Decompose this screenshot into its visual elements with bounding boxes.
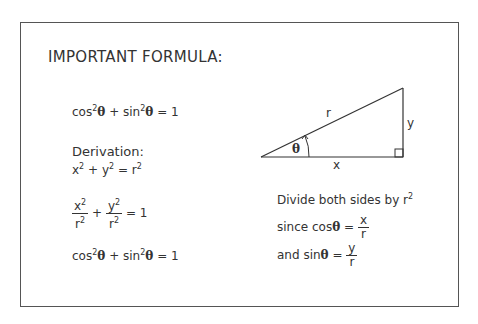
- equals-one: = 1: [126, 206, 148, 220]
- equals-one: = 1: [157, 105, 179, 119]
- exponent: 2: [81, 198, 86, 207]
- plus-sign: +: [109, 105, 119, 119]
- cos-text: cos: [72, 105, 92, 119]
- derivation-result: cos2θ + sin2θ = 1: [72, 248, 179, 263]
- fraction-step: x2 r2 + y2 r2 = 1: [72, 196, 147, 231]
- exponent: 2: [408, 192, 413, 201]
- divide-note: Divide both sides by r2: [277, 192, 413, 207]
- sin-definition: and sinθ = y r: [277, 242, 357, 269]
- divide-text: Divide both sides by r: [277, 193, 408, 207]
- exponent: 2: [114, 216, 119, 225]
- sin-text: sin: [123, 249, 140, 263]
- theta-symbol: θ: [97, 105, 105, 119]
- numerator: y: [346, 242, 357, 256]
- denominator: r: [358, 228, 369, 241]
- theta-symbol: θ: [321, 248, 329, 262]
- hypotenuse: [261, 88, 403, 157]
- denominator: r: [346, 256, 357, 269]
- page-title: IMPORTANT FORMULA:: [48, 48, 223, 66]
- exponent: 2: [79, 162, 84, 171]
- derivation-heading: Derivation:: [72, 144, 144, 159]
- pythagorean-theorem: x2 + y2 = r2: [72, 162, 142, 177]
- right-angle-marker: [395, 149, 403, 157]
- theta-symbol: θ: [97, 249, 105, 263]
- cos-text: since cos: [277, 220, 332, 234]
- sin-text: and sin: [277, 248, 321, 262]
- fraction-y-over-r: y2 r2: [106, 196, 122, 231]
- exponent: 2: [109, 162, 114, 171]
- angle-arc: [305, 136, 309, 157]
- numerator: x: [358, 214, 369, 228]
- plus-sign: +: [109, 249, 119, 263]
- fraction-x-over-r: x r: [358, 214, 369, 241]
- adjacent-label: x: [333, 158, 340, 172]
- exponent: 2: [137, 162, 142, 171]
- equals-sign: =: [344, 220, 354, 234]
- plus-sign: +: [92, 206, 102, 220]
- cos-text: cos: [72, 249, 92, 263]
- y-var: y: [102, 163, 109, 177]
- angle-label: θ: [292, 142, 300, 156]
- cos-definition: since cosθ = x r: [277, 214, 369, 241]
- plus-sign: +: [88, 163, 98, 177]
- pythagorean-identity: cos2θ + sin2θ = 1: [72, 104, 179, 119]
- fraction-y-over-r: y r: [346, 242, 357, 269]
- y-var: y: [108, 199, 115, 213]
- fraction-x-over-r: x2 r2: [72, 196, 88, 231]
- equals-sign: =: [332, 248, 342, 262]
- theta-symbol: θ: [332, 220, 340, 234]
- exponent: 2: [115, 198, 120, 207]
- exponent: 2: [80, 216, 85, 225]
- equals-one: = 1: [157, 249, 179, 263]
- theta-symbol: θ: [145, 249, 153, 263]
- equals-sign: =: [118, 163, 128, 177]
- opposite-label: y: [407, 116, 414, 130]
- theta-symbol: θ: [145, 105, 153, 119]
- sin-text: sin: [123, 105, 140, 119]
- hypotenuse-label: r: [326, 106, 331, 120]
